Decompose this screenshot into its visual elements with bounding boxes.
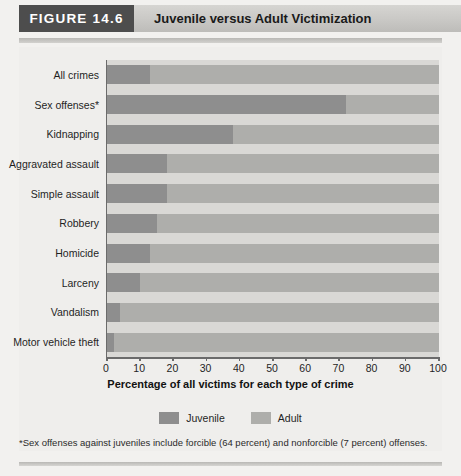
bar-segment-juvenile	[107, 273, 140, 292]
category-label: Robbery	[59, 217, 99, 229]
x-tick	[305, 357, 307, 361]
bar-segment-adult	[167, 154, 439, 173]
x-tick-label: 80	[366, 362, 378, 374]
category-label: Sex offenses*	[34, 99, 99, 111]
x-tick-label: 90	[399, 362, 411, 374]
x-tick-label: 30	[200, 362, 212, 374]
x-tick-label: 20	[167, 362, 179, 374]
bar-row: Aggravated assault	[107, 154, 439, 173]
x-tick-label: 60	[299, 362, 311, 374]
x-tick-label: 50	[266, 362, 278, 374]
category-label: Simple assault	[31, 188, 99, 200]
bar-segment-adult	[150, 65, 439, 84]
x-tick	[372, 357, 374, 361]
bar-row: Kidnapping	[107, 125, 439, 144]
x-tick	[139, 357, 141, 361]
bar-segment-adult	[140, 273, 439, 292]
bar-segment-juvenile	[107, 95, 346, 114]
bar-segment-juvenile	[107, 244, 150, 263]
category-label: Aggravated assault	[9, 158, 99, 170]
x-tick	[405, 357, 407, 361]
bar-row: Robbery	[107, 214, 439, 233]
x-tick	[338, 357, 340, 361]
bar-segment-adult	[346, 95, 439, 114]
bar-segment-adult	[150, 244, 439, 263]
category-label: Homicide	[55, 247, 99, 259]
chart-panel: All crimesSex offenses*KidnappingAggrava…	[19, 47, 442, 451]
figure-title: Juvenile versus Adult Victimization	[134, 5, 461, 32]
legend-juvenile: Juvenile	[159, 412, 225, 424]
bar-segment-juvenile	[107, 125, 233, 144]
chart-legend: JuvenileAdult	[19, 412, 442, 424]
bar-segment-juvenile	[107, 184, 167, 203]
bar-group: All crimesSex offenses*KidnappingAggrava…	[107, 60, 439, 357]
category-label: Motor vehicle theft	[13, 336, 99, 348]
legend-swatch-icon	[251, 412, 271, 424]
legend-label: Juvenile	[186, 412, 225, 424]
category-label: Vandalism	[51, 306, 99, 318]
bar-row: All crimes	[107, 65, 439, 84]
bar-row: Homicide	[107, 244, 439, 263]
plot-area: All crimesSex offenses*KidnappingAggrava…	[106, 60, 439, 357]
bar-segment-adult	[114, 333, 439, 352]
category-label: All crimes	[53, 69, 99, 81]
bar-segment-juvenile	[107, 303, 120, 322]
bar-segment-juvenile	[107, 65, 150, 84]
legend-adult: Adult	[251, 412, 302, 424]
x-tick	[239, 357, 241, 361]
x-tick-label: 100	[429, 362, 447, 374]
bar-segment-adult	[120, 303, 439, 322]
x-tick-label: 0	[103, 362, 109, 374]
bar-segment-adult	[233, 125, 439, 144]
x-axis-title: Percentage of all victims for each type …	[19, 378, 442, 390]
figure-number-tag: FIGURE 14.6	[19, 5, 134, 32]
bar-row: Sex offenses*	[107, 95, 439, 114]
x-tick-label: 10	[133, 362, 145, 374]
bar-row: Vandalism	[107, 303, 439, 322]
x-tick	[272, 357, 274, 361]
header-divider	[19, 38, 442, 43]
figure-footnote: *Sex offenses against juveniles include …	[19, 437, 442, 448]
legend-label: Adult	[278, 412, 302, 424]
x-tick	[206, 357, 208, 361]
figure-container: FIGURE 14.6 Juvenile versus Adult Victim…	[0, 0, 461, 476]
bar-segment-adult	[167, 184, 439, 203]
x-tick	[438, 357, 440, 361]
bar-row: Motor vehicle theft	[107, 333, 439, 352]
x-tick	[106, 357, 108, 361]
x-tick-label: 70	[333, 362, 345, 374]
x-tick-label: 40	[233, 362, 245, 374]
legend-swatch-icon	[159, 412, 179, 424]
bar-row: Simple assault	[107, 184, 439, 203]
bar-segment-juvenile	[107, 214, 157, 233]
bar-row: Larceny	[107, 273, 439, 292]
bar-segment-juvenile	[107, 333, 114, 352]
x-tick	[172, 357, 174, 361]
bar-segment-juvenile	[107, 154, 167, 173]
figure-header: FIGURE 14.6 Juvenile versus Adult Victim…	[0, 5, 461, 32]
category-label: Larceny	[62, 277, 99, 289]
footer-divider	[19, 462, 442, 466]
category-label: Kidnapping	[46, 128, 99, 140]
bar-segment-adult	[157, 214, 439, 233]
